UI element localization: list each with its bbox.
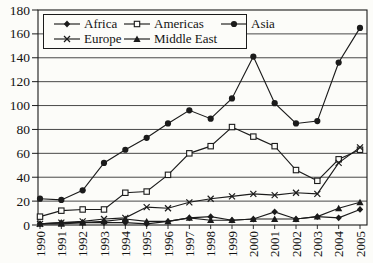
- series-asia: [37, 25, 363, 203]
- x-axis-label: 1991: [54, 231, 69, 257]
- middle-east-triangle-marker-icon: [123, 34, 151, 44]
- y-axis-label: 80: [17, 122, 31, 137]
- legend-label-africa: Africa: [84, 17, 117, 30]
- x-axis-label: 2004: [331, 231, 346, 258]
- x-axis-label: 1992: [75, 231, 90, 257]
- x-axis-label: 1993: [97, 231, 112, 257]
- y-axis-label: 140: [10, 50, 31, 65]
- x-axis-label: 1994: [118, 231, 133, 258]
- x-axis-label: 1998: [203, 231, 218, 257]
- line-chart: 0204060801001201401601801990199119921993…: [0, 0, 373, 263]
- legend-item-africa: Africa: [53, 17, 123, 30]
- chart-legend: Africa Americas Asia Europe Middle East: [43, 14, 247, 49]
- y-axis-label: 0: [23, 218, 30, 233]
- legend-item-europe: Europe: [53, 32, 123, 45]
- x-axis-label: 2001: [267, 231, 282, 257]
- legend-label-asia: Asia: [251, 17, 275, 30]
- x-axis-label: 1999: [225, 231, 240, 257]
- x-axis: 1990199119921993199419951996199719981999…: [33, 225, 368, 257]
- x-axis-label: 1997: [182, 231, 197, 258]
- chart-screenshot: 0204060801001201401601801990199119921993…: [0, 0, 373, 263]
- asia-circle-marker-icon: [220, 19, 248, 29]
- legend-label-americas: Americas: [154, 17, 204, 30]
- legend-item-asia: Asia: [220, 17, 275, 30]
- legend-item-americas: Americas: [123, 17, 220, 30]
- americas-square-marker-icon: [123, 19, 151, 29]
- x-axis-label: 1990: [33, 231, 48, 257]
- europe-x-marker-icon: [53, 34, 81, 44]
- x-axis-label: 1995: [139, 231, 154, 257]
- x-axis-label: 2005: [353, 231, 368, 257]
- y-axis-label: 20: [17, 194, 31, 209]
- y-axis-label: 40: [17, 170, 31, 185]
- legend-label-europe: Europe: [84, 32, 122, 45]
- x-axis-label: 2000: [246, 231, 261, 257]
- y-axis-label: 160: [10, 26, 31, 41]
- series-americas: [37, 124, 362, 219]
- x-axis-label: 2003: [310, 231, 325, 257]
- y-axis-label: 100: [10, 98, 31, 113]
- series-line-europe: [40, 147, 360, 223]
- gridlines: [38, 34, 367, 201]
- y-axis-label: 180: [10, 3, 31, 18]
- x-axis-label: 1996: [161, 231, 176, 258]
- x-axis-label: 2002: [289, 231, 304, 257]
- series-line-americas: [40, 127, 360, 217]
- series-line-africa: [40, 209, 360, 223]
- africa-diamond-marker-icon: [53, 19, 81, 29]
- legend-label-middle-east: Middle East: [154, 32, 217, 45]
- y-axis-label: 60: [17, 146, 31, 161]
- series-line-asia: [40, 28, 360, 200]
- series-middle-east: [36, 199, 363, 227]
- legend-item-middle-east: Middle East: [123, 32, 220, 45]
- y-axis: 020406080100120140160180: [10, 3, 38, 233]
- y-axis-label: 120: [10, 74, 31, 89]
